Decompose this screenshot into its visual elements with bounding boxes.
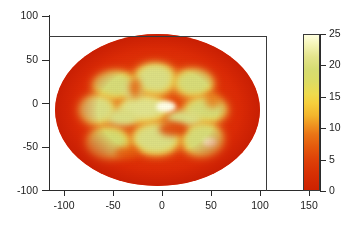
y-tick-label-m100: -100 bbox=[4, 185, 38, 196]
x-tick-label-m100: -100 bbox=[44, 200, 84, 211]
y-tick-label-50: 50 bbox=[4, 54, 38, 65]
rim-shading bbox=[55, 34, 260, 186]
colorbar bbox=[303, 34, 320, 191]
x-tick-label-150: 150 bbox=[289, 200, 329, 211]
x-tick-label-0: 0 bbox=[142, 200, 182, 211]
density-field bbox=[50, 15, 266, 190]
colorbar-tick-5 bbox=[320, 160, 326, 161]
y-tick-100 bbox=[42, 16, 49, 17]
colorbar-axis-spine bbox=[320, 34, 321, 191]
y-tick-m50 bbox=[42, 147, 49, 148]
colorbar-tick-20 bbox=[320, 65, 326, 66]
colorbar-label-20: 20 bbox=[329, 59, 353, 70]
colorbar-label-5: 5 bbox=[329, 154, 353, 165]
colorbar-gradient bbox=[304, 35, 319, 190]
x-tick-m50 bbox=[113, 190, 114, 196]
heatmap-figure: 100 50 0 -50 -100 -100 -50 0 50 100 150 … bbox=[0, 0, 356, 233]
x-tick-label-50: 50 bbox=[191, 200, 231, 211]
x-tick-label-100: 100 bbox=[240, 200, 280, 211]
y-axis-spine bbox=[49, 15, 50, 191]
y-tick-label-m50: -50 bbox=[4, 141, 38, 152]
plot-area bbox=[50, 15, 266, 190]
y-tick-50 bbox=[42, 60, 49, 61]
colorbar-label-25: 25 bbox=[329, 28, 353, 39]
plot-box-right bbox=[266, 36, 267, 191]
colorbar-tick-0 bbox=[320, 191, 326, 192]
y-tick-0 bbox=[42, 103, 49, 104]
y-tick-m100 bbox=[42, 190, 49, 191]
x-tick-label-m50: -50 bbox=[93, 200, 133, 211]
colorbar-label-10: 10 bbox=[329, 122, 353, 133]
x-tick-100 bbox=[260, 190, 261, 196]
plot-box-top bbox=[49, 36, 267, 37]
elliptical-domain bbox=[55, 34, 260, 186]
x-tick-0 bbox=[162, 190, 163, 196]
x-tick-50 bbox=[211, 190, 212, 196]
colorbar-tick-25 bbox=[320, 34, 326, 35]
x-axis-spine bbox=[49, 190, 268, 191]
y-tick-label-100: 100 bbox=[4, 10, 38, 21]
colorbar-label-15: 15 bbox=[329, 91, 353, 102]
colorbar-tick-15 bbox=[320, 97, 326, 98]
colorbar-label-0: 0 bbox=[329, 185, 353, 196]
x-tick-m100 bbox=[64, 190, 65, 196]
colorbar-tick-10 bbox=[320, 128, 326, 129]
y-tick-label-0: 0 bbox=[4, 98, 38, 109]
